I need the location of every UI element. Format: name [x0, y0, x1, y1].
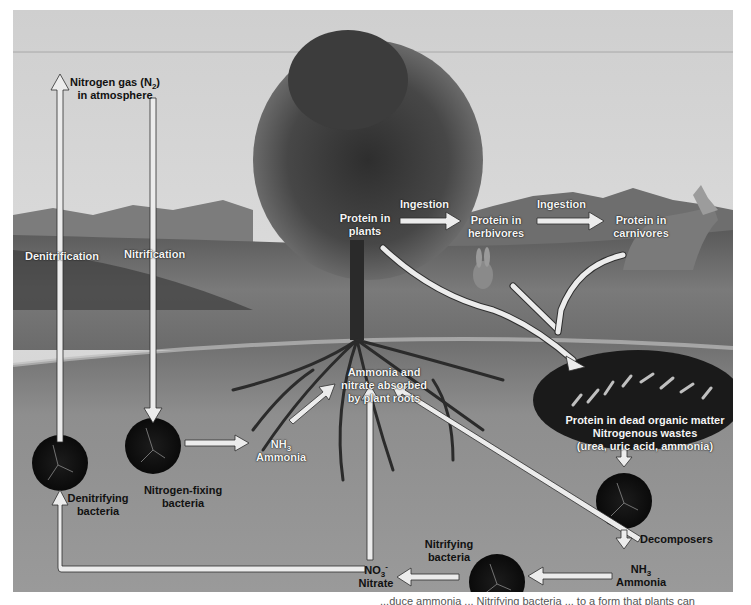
- atmosphere-label: Nitrogen gas (N2) in atmosphere: [45, 76, 185, 102]
- protein-carnivores-line1: Protein in: [616, 214, 667, 226]
- nitrogen-cycle-diagram: Nitrogen gas (N2) in atmosphere Denitrif…: [13, 10, 733, 592]
- denitrification-label: Denitrification: [25, 250, 99, 263]
- protein-plants-label: Protein in plants: [335, 212, 395, 238]
- dead-matter-line3: (urea, uric acid, ammonia): [577, 440, 713, 452]
- decomposers-label: Decomposers: [640, 533, 713, 546]
- ammonia-name: Ammonia: [256, 451, 306, 463]
- nitrifying-bacteria-label: Nitrifying bacteria: [419, 538, 479, 564]
- atmosphere-paren: ): [156, 76, 160, 88]
- nitrate-label: NO3- Nitrate: [356, 564, 396, 590]
- no3-superscript: -: [385, 562, 388, 571]
- ammonia-right-label: NH3 Ammonia: [613, 563, 669, 589]
- nitrification-label: Nitrification: [124, 248, 185, 261]
- nitrogen-fixing-line2: bacteria: [162, 497, 204, 509]
- absorbed-by-roots-label: Ammonia and nitrate absorbed by plant ro…: [329, 366, 439, 405]
- figure-caption-fragment: ...duce ammonia ... Nitrifying bacteria …: [380, 595, 751, 605]
- denitrifying-bacteria-label: Denitrifying bacteria: [63, 492, 133, 518]
- absorbed-line3: by plant roots: [348, 392, 421, 404]
- protein-herbivores-line2: herbivores: [468, 227, 524, 239]
- ingestion-label-1: Ingestion: [400, 198, 449, 211]
- atmosphere-text: Nitrogen gas (N: [70, 76, 152, 88]
- ammonia-right-name: Ammonia: [616, 576, 666, 588]
- nitrifying-line1: Nitrifying: [425, 538, 473, 550]
- nh3-right-formula: NH: [631, 563, 647, 575]
- nitrogen-fixing-bacteria-label: Nitrogen-fixing bacteria: [138, 484, 228, 510]
- protein-carnivores-line2: carnivores: [613, 227, 669, 239]
- protein-plants-line2: plants: [349, 225, 381, 237]
- nitrogen-fixing-line1: Nitrogen-fixing: [144, 484, 222, 496]
- absorbed-line2: nitrate absorbed: [341, 379, 427, 391]
- denitrifying-line1: Denitrifying: [67, 492, 128, 504]
- protein-plants-line1: Protein in: [340, 212, 391, 224]
- ingestion-label-2: Ingestion: [537, 198, 586, 211]
- nitrate-name: Nitrate: [359, 577, 394, 589]
- denitrifying-line2: bacteria: [77, 505, 119, 517]
- atmosphere-line2: in atmosphere: [77, 89, 152, 101]
- dead-matter-line1: Protein in dead organic matter: [566, 414, 725, 426]
- protein-herbivores-line1: Protein in: [471, 214, 522, 226]
- absorbed-line1: Ammonia and: [348, 366, 421, 378]
- nh3-formula: NH: [271, 438, 287, 450]
- no3-formula: NO: [364, 564, 381, 576]
- dead-matter-line2: Nitrogenous wastes: [593, 427, 698, 439]
- ammonia-left-label: NH3 Ammonia: [253, 438, 309, 464]
- protein-herbivores-label: Protein in herbivores: [461, 214, 531, 240]
- nitrifying-line2: bacteria: [428, 551, 470, 563]
- protein-carnivores-label: Protein in carnivores: [606, 214, 676, 240]
- dead-organic-matter-label: Protein in dead organic matter Nitrogeno…: [555, 414, 733, 453]
